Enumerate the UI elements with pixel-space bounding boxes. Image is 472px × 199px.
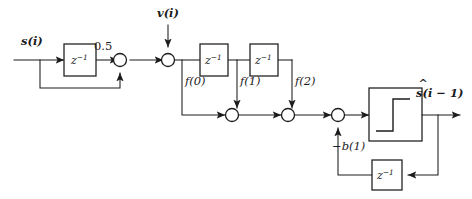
feedback-gain-label: −b(1): [332, 139, 365, 153]
forward-gain-label: 0.5: [94, 39, 112, 53]
tap-label-f2: f(2): [294, 74, 316, 88]
noise-signal-label: v(i): [157, 6, 179, 20]
summing-junction-noise: [162, 54, 175, 67]
diagram-canvas: z−1 s(i) 0.5 v(i) z−1 z−1 f(0): [0, 0, 472, 199]
summing-junction-tap-2: [282, 109, 295, 122]
tap-label-f1: f(1): [239, 74, 261, 88]
summing-junction-tap-1: [226, 109, 239, 122]
summing-junction-input-feedback: [114, 54, 127, 67]
summing-junction-decision-feedback: [332, 109, 345, 122]
tap-label-f0: f(0): [184, 74, 206, 88]
output-signal-label: s(i − 1): [416, 86, 463, 100]
block-diagram-figure: z−1 s(i) 0.5 v(i) z−1 z−1 f(0): [0, 0, 472, 199]
input-signal-label: s(i): [21, 34, 43, 48]
sign-detector-block: [369, 88, 422, 141]
